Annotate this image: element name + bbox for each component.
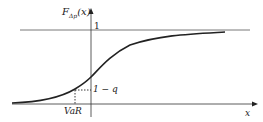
asymptote-label: 1 bbox=[94, 21, 100, 31]
cdf-diagram: FΔp(x) 1 1 − q VaR x bbox=[0, 0, 263, 122]
y-axis-label: FΔp(x) bbox=[62, 6, 91, 19]
diagram-graphics bbox=[0, 0, 263, 122]
quantile-level-label: 1 − q bbox=[93, 84, 118, 94]
x-axis-arrow-icon bbox=[252, 102, 258, 107]
var-label: VaR bbox=[64, 106, 82, 116]
cdf-curve bbox=[12, 32, 225, 103]
x-axis-label: x bbox=[245, 108, 250, 118]
